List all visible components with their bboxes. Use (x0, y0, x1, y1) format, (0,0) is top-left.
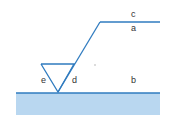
label-a: a (131, 24, 136, 33)
label-c: c (131, 10, 136, 19)
label-d: d (72, 76, 77, 85)
label-b: b (131, 76, 136, 85)
welding-diagram (0, 0, 171, 124)
arrow-line (58, 22, 100, 92)
stray-dot (94, 64, 96, 66)
base-material-fill (16, 93, 160, 115)
label-e: e (41, 76, 46, 85)
